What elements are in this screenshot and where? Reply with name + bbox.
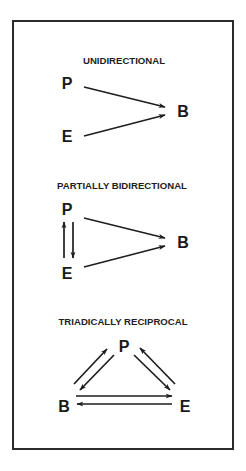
arrow-e-to-b-icon (84, 246, 165, 267)
panel-arrows (64, 218, 165, 267)
arrow-p-to-b-icon (84, 218, 165, 238)
node-person: P (62, 201, 73, 218)
node-environment: E (62, 265, 73, 282)
panel-title-unidirectional: UNIDIRECTIONAL (83, 55, 165, 66)
triadic-reciprocity-diagram: UNIDIRECTIONAL P E B PARTIALLY BIDIRECTI… (0, 0, 246, 471)
node-person: P (119, 338, 130, 355)
node-environment: E (62, 128, 73, 145)
figure-frame (13, 21, 233, 449)
arrow-e-to-b-icon (84, 115, 165, 136)
arrow-p-to-b-icon (84, 87, 165, 107)
panel-partially-bidirectional: PARTIALLY BIDIRECTIONAL P E B (57, 180, 189, 282)
panel-unidirectional: UNIDIRECTIONAL P E B (62, 55, 189, 145)
node-environment: E (180, 398, 191, 415)
panel-triadically-reciprocal: TRIADICALLY RECIPROCAL P B E (58, 316, 190, 415)
panel-arrows (84, 87, 165, 136)
node-person: P (62, 75, 73, 92)
node-behavior: B (177, 234, 189, 251)
panel-title-triadically-reciprocal: TRIADICALLY RECIPROCAL (59, 316, 188, 327)
panel-nodes: P E B (62, 201, 189, 282)
panel-title-partially-bidirectional: PARTIALLY BIDIRECTIONAL (57, 180, 187, 191)
node-behavior: B (177, 103, 189, 120)
panel-nodes: P E B (62, 75, 189, 145)
panel-arrows (74, 348, 175, 404)
node-behavior: B (58, 398, 70, 415)
